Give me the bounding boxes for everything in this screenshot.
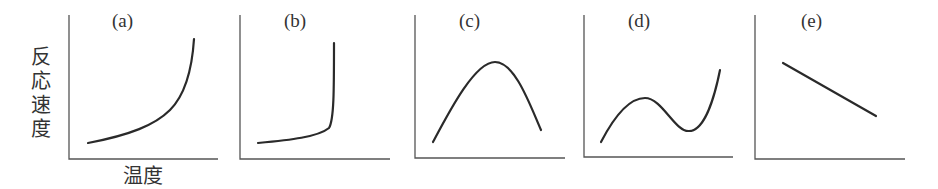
curve bbox=[783, 63, 876, 116]
x-axis-label: 温度 bbox=[123, 164, 163, 188]
panel-d: (d) bbox=[584, 10, 733, 157]
panel-label: (d) bbox=[628, 10, 650, 32]
panel-e: (e) bbox=[755, 10, 905, 159]
y-label-char: 度 bbox=[31, 117, 51, 141]
axes bbox=[240, 15, 390, 159]
reaction-rate-figure: 反 応 速 度 温度 (a) (b) (c) (d) (e) bbox=[0, 0, 938, 189]
panel-b: (b) bbox=[240, 10, 390, 159]
axes bbox=[69, 15, 218, 159]
y-label-char: 応 bbox=[31, 69, 51, 93]
y-axis-label: 反 応 速 度 bbox=[31, 45, 51, 141]
curve bbox=[258, 43, 334, 143]
panel-label: (a) bbox=[112, 10, 133, 32]
y-label-char: 速 bbox=[31, 93, 51, 117]
curve bbox=[88, 39, 194, 143]
panel-label: (b) bbox=[284, 10, 306, 32]
y-label-char: 反 bbox=[31, 45, 51, 69]
curve bbox=[433, 62, 541, 142]
panel-label: (c) bbox=[459, 10, 480, 32]
axes bbox=[415, 15, 565, 158]
curve bbox=[601, 70, 720, 142]
panel-label: (e) bbox=[801, 10, 822, 32]
axes bbox=[755, 15, 905, 159]
panel-c: (c) bbox=[415, 10, 565, 158]
axes bbox=[584, 15, 733, 157]
panel-a: (a) bbox=[69, 10, 218, 159]
